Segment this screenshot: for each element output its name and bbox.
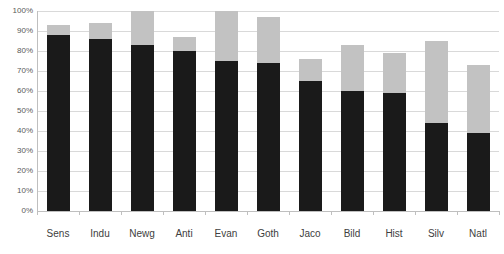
bar-segment-dark-indu	[89, 39, 112, 211]
x-axis-category-labels: SensInduNewgAntiEvanGothJacoBildHistSilv…	[37, 228, 499, 244]
x-category-label-indu: Indu	[79, 228, 121, 240]
bar-segment-light-newg	[131, 11, 154, 45]
y-tick-label-70: 70%	[1, 67, 33, 75]
bar-segment-dark-natl	[467, 133, 490, 211]
x-category-label-evan: Evan	[205, 228, 247, 240]
y-tick-label-30: 30%	[1, 147, 33, 155]
bar-segment-light-hist	[383, 53, 406, 93]
x-category-label-hist: Hist	[373, 228, 415, 240]
bar-segment-light-bild	[341, 45, 364, 91]
bar-segment-dark-newg	[131, 45, 154, 211]
bar-goth	[257, 11, 280, 211]
bar-natl	[467, 11, 490, 211]
y-tick-label-60: 60%	[1, 87, 33, 95]
bar-sens	[47, 11, 70, 211]
y-tick-label-50: 50%	[1, 107, 33, 115]
plot-area	[37, 11, 499, 211]
bar-segment-light-goth	[257, 17, 280, 63]
bar-segment-light-evan	[215, 11, 238, 61]
y-tick-label-10: 10%	[1, 187, 33, 195]
stacked-bar-chart: 100%90%80%70%60%50%40%30%20%10%0% SensIn…	[0, 0, 504, 254]
y-tick-label-0: 0%	[1, 207, 33, 215]
bar-newg	[131, 11, 154, 211]
bar-segment-light-indu	[89, 23, 112, 39]
bar-segment-dark-bild	[341, 91, 364, 211]
bar-segment-light-silv	[425, 41, 448, 123]
bar-segment-light-natl	[467, 65, 490, 133]
bar-segment-dark-evan	[215, 61, 238, 211]
x-tick-mark-7	[373, 211, 374, 215]
bar-segment-dark-anti	[173, 51, 196, 211]
y-tick-label-80: 80%	[1, 47, 33, 55]
bar-anti	[173, 11, 196, 211]
x-tick-mark-8	[415, 211, 416, 215]
bar-segment-dark-goth	[257, 63, 280, 211]
x-category-label-anti: Anti	[163, 228, 205, 240]
x-category-label-goth: Goth	[247, 228, 289, 240]
x-tick-mark-10	[499, 211, 500, 215]
bar-indu	[89, 11, 112, 211]
x-category-label-sens: Sens	[37, 228, 79, 240]
x-tick-mark-4	[247, 211, 248, 215]
bar-evan	[215, 11, 238, 211]
x-category-label-silv: Silv	[415, 228, 457, 240]
bar-segment-dark-jaco	[299, 81, 322, 211]
x-tick-mark-9	[457, 211, 458, 215]
bar-hist	[383, 11, 406, 211]
x-tick-mark-1	[121, 211, 122, 215]
y-tick-label-90: 90%	[1, 27, 33, 35]
y-tick-label-100: 100%	[1, 7, 33, 15]
x-tick-mark-2	[163, 211, 164, 215]
x-tick-mark-3	[205, 211, 206, 215]
bar-segment-dark-hist	[383, 93, 406, 211]
bar-segment-dark-sens	[47, 35, 70, 211]
x-category-label-bild: Bild	[331, 228, 373, 240]
x-tick-mark-6	[331, 211, 332, 215]
x-category-label-jaco: Jaco	[289, 228, 331, 240]
y-axis-tick-labels: 100%90%80%70%60%50%40%30%20%10%0%	[0, 11, 33, 211]
bar-jaco	[299, 11, 322, 211]
x-category-label-natl: Natl	[457, 228, 499, 240]
x-tick-mark-0	[79, 211, 80, 215]
y-tick-label-20: 20%	[1, 167, 33, 175]
bar-segment-light-anti	[173, 37, 196, 51]
x-category-label-newg: Newg	[121, 228, 163, 240]
x-tick-mark-origin	[37, 211, 38, 215]
gridline-0	[37, 211, 499, 212]
bar-segment-light-sens	[47, 25, 70, 35]
bar-silv	[425, 11, 448, 211]
y-tick-label-40: 40%	[1, 127, 33, 135]
bar-segment-light-jaco	[299, 59, 322, 81]
bar-bild	[341, 11, 364, 211]
x-tick-mark-5	[289, 211, 290, 215]
bar-segment-dark-silv	[425, 123, 448, 211]
